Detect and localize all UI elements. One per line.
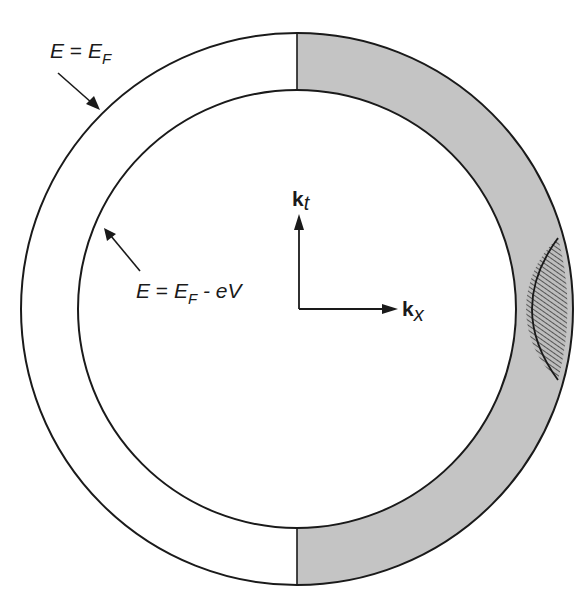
inner-fermi-circle xyxy=(78,90,516,528)
outer-label-arrowhead-icon xyxy=(86,96,100,110)
fermi-sphere-diagram: E = EF E = EF - eV kt kx xyxy=(0,0,587,607)
outer-label-arrow-line xyxy=(58,73,92,103)
inner-circle-label: E = EF - eV xyxy=(136,279,243,307)
kt-arrowhead-icon xyxy=(294,214,304,230)
kx-axis-label: kx xyxy=(402,297,425,325)
outer-circle-label: E = EF xyxy=(50,39,112,67)
inner-label-arrow-line xyxy=(111,236,140,271)
kx-arrowhead-icon xyxy=(382,304,398,314)
kt-axis-label: kt xyxy=(292,187,311,214)
